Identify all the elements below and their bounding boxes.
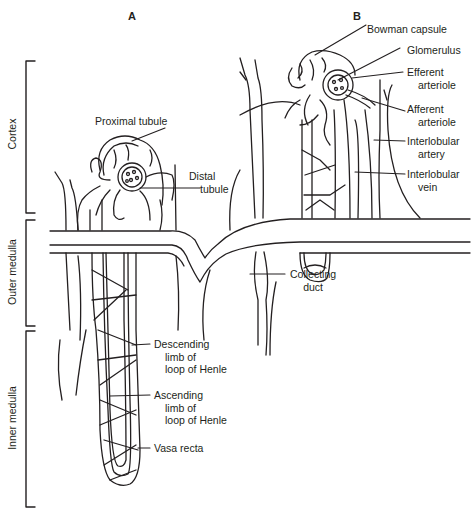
nephron-a [78, 136, 175, 230]
label-vasa-recta: Vasa recta [154, 442, 203, 455]
label-interlobular-vein: Interlobular vein [407, 168, 460, 193]
label-descending-line3: loop of Henle [154, 363, 227, 376]
label-afferent-line1: Afferent [407, 103, 444, 115]
panel-label-b: B [353, 10, 361, 22]
label-bowman-capsule: Bowman capsule [367, 23, 447, 36]
zone-brackets [26, 61, 35, 507]
label-proximal-tubule: Proximal tubule [95, 115, 167, 128]
label-ascending-line3: loop of Henle [154, 414, 227, 427]
label-distal-tubule-line2: tubule [189, 183, 229, 196]
leader-lines [110, 25, 405, 448]
label-descending-limb: Descending limb of loop of Henle [154, 338, 227, 376]
label-efferent-line2: arteriole [407, 79, 456, 92]
label-interlobular-artery-line2: artery [407, 148, 460, 161]
label-descending-line2: limb of [154, 351, 227, 364]
label-afferent-arteriole: Afferent arteriole [407, 103, 456, 128]
label-ascending-line2: limb of [154, 402, 227, 415]
label-collecting-duct-line2: duct [290, 281, 336, 294]
loop-of-henle-a [92, 253, 140, 485]
label-collecting-duct: Collecting duct [290, 268, 336, 293]
label-interlobular-artery-line1: Interlobular [407, 135, 460, 147]
zone-label-outer-medulla: Outer medulla [6, 236, 18, 308]
zone-label-inner-medulla: Inner medulla [6, 384, 18, 452]
zone-label-cortex: Cortex [6, 114, 18, 154]
label-collecting-duct-line1: Collecting [290, 268, 336, 280]
arcuate-vessels [50, 219, 470, 282]
label-interlobular-artery: Interlobular artery [407, 135, 460, 160]
label-descending-line1: Descending [154, 338, 209, 350]
label-distal-tubule: Distal tubule [189, 170, 229, 195]
label-distal-tubule-line1: Distal [189, 170, 215, 182]
label-efferent-arteriole: Efferent arteriole [407, 66, 456, 91]
label-glomerulus: Glomerulus [407, 44, 461, 57]
panel-label-a: A [128, 10, 136, 22]
label-efferent-line1: Efferent [407, 66, 444, 78]
label-ascending-limb: Ascending limb of loop of Henle [154, 389, 227, 427]
nephron-illustration [0, 0, 474, 518]
label-afferent-line2: arteriole [407, 116, 456, 129]
label-interlobular-vein-line1: Interlobular [407, 168, 460, 180]
label-interlobular-vein-line2: vein [407, 181, 460, 194]
label-ascending-line1: Ascending [154, 389, 203, 401]
